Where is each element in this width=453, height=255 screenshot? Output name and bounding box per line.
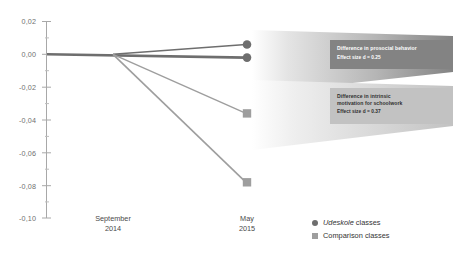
x-tick-label-line1: September — [67, 214, 159, 224]
annotation-prosocial-title: Difference in prosocial behavior — [337, 45, 447, 52]
marker-udeskole-motivation — [243, 53, 252, 62]
x-tick-label-line2: 2014 — [67, 224, 159, 234]
y-tick-label-3: -0,04 — [10, 116, 36, 125]
annotation-motivation-title-line2: motivation for schoolwork — [337, 100, 402, 106]
legend-square-marker-icon — [312, 233, 318, 239]
annotation-motivation-title-line1: Difference in intrinsic — [337, 93, 391, 99]
annotation-box-prosocial: Difference in prosocial behavior Effect … — [330, 40, 453, 69]
series-line-udeskole-motivation — [47, 54, 246, 57]
chart-canvas: 0,02 0,00 -0,02 -0,04 -0,06 -0,08 -0,10 … — [0, 0, 453, 255]
legend-circle-marker-icon — [312, 220, 318, 226]
x-tick-label-line2: 2015 — [201, 224, 293, 234]
marker-comparison-prosocial — [243, 109, 251, 117]
legend-item-udeskole: Udeskole classes — [312, 218, 381, 227]
y-tick-label-0: 0,02 — [10, 17, 36, 26]
annotation-motivation-effectsize: Effect size d = 0.37 — [337, 109, 447, 115]
marker-comparison-motivation — [243, 178, 251, 186]
annotation-box-motivation: Difference in intrinsic motivation for s… — [330, 88, 453, 124]
y-tick-label-2: -0,02 — [10, 83, 36, 92]
series-line-comparison-prosocial — [113, 54, 246, 113]
annotation-prosocial-effectsize: Effect size d = 0.25 — [337, 55, 447, 61]
legend-item-comparison: Comparison classes — [312, 231, 390, 240]
y-tick-label-6: -0,10 — [10, 214, 36, 223]
legend-label-udeskole: Udeskole classes — [323, 218, 381, 227]
marker-udeskole-prosocial — [243, 40, 252, 49]
legend-label-udeskole-italic: Udeskole — [323, 218, 354, 227]
x-tick-label-line1: May — [201, 214, 293, 224]
series-line-comparison-motivation — [113, 54, 246, 182]
series-line-udeskole-prosocial — [113, 45, 246, 55]
annotation-motivation-title: Difference in intrinsic motivation for s… — [337, 93, 447, 106]
legend-label-comparison: Comparison classes — [323, 231, 390, 240]
legend-label-udeskole-rest: classes — [354, 218, 381, 227]
y-tick-label-5: -0,08 — [10, 182, 36, 191]
x-tick-label-may-2015: May 2015 — [201, 214, 293, 233]
y-tick-label-1: 0,00 — [10, 50, 36, 59]
y-tick-label-4: -0,06 — [10, 149, 36, 158]
x-tick-label-september-2014: September 2014 — [67, 214, 159, 233]
